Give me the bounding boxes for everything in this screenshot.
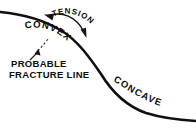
label-tension: TENSION (51, 7, 96, 26)
label-fracture-line: FRACTURE LINE (9, 69, 89, 80)
diagram-canvas: TENSION CONVEX CONCAVE PROBABLE FRACTURE… (0, 0, 196, 134)
label-probable: PROBABLE (11, 58, 67, 69)
tension-arrowhead-right-icon (81, 28, 87, 38)
label-convex: CONVEX (24, 18, 74, 43)
probable-fracture-dashed-line (38, 38, 49, 51)
fold-diagram: TENSION CONVEX CONCAVE PROBABLE FRACTURE… (0, 0, 196, 134)
label-concave: CONCAVE (112, 73, 164, 108)
